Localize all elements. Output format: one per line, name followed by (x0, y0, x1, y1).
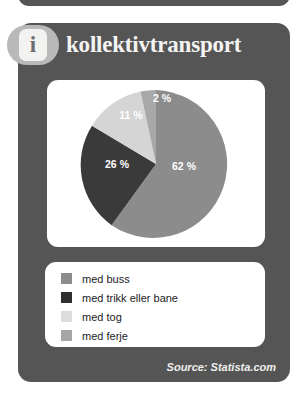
legend-swatch-icon-med-trikk-eller-bane (61, 292, 72, 303)
info-icon: i (7, 25, 59, 65)
page-title: kollektivtransport (66, 27, 286, 63)
legend-swatch-icon-med-tog (61, 311, 72, 322)
infographic-card: i kollektivtransport 62 % 26 % 11 % 2 % (18, 23, 290, 382)
legend-item-med-ferje[interactable]: med ferje (61, 327, 261, 344)
source-attribution: Source: Statista.com (167, 361, 276, 373)
legend-item-med-tog[interactable]: med tog (61, 308, 261, 325)
legend-item-med-trikk-eller-bane[interactable]: med trikk eller bane (61, 289, 261, 306)
pie-label-med-ferje: 2 % (153, 92, 172, 104)
legend-swatch-icon-med-ferje (61, 330, 72, 341)
pie-label-med-buss: 62 % (172, 160, 197, 172)
legend-swatch-icon-med-buss (61, 273, 72, 284)
legend-panel: med buss med trikk eller bane med tog me… (45, 262, 265, 347)
chart-panel: 62 % 26 % 11 % 2 % (47, 80, 265, 247)
legend-label-med-trikk-eller-bane: med trikk eller bane (82, 292, 178, 304)
legend-label-med-buss: med buss (82, 273, 130, 285)
pie-chart-svg: 62 % 26 % 11 % 2 % (76, 84, 236, 244)
pie-label-med-tog: 11 % (119, 109, 143, 121)
pie-label-med-trikk-eller-bane: 26 % (105, 158, 130, 170)
partial-panel-above (18, 0, 290, 6)
pie-chart: 62 % 26 % 11 % 2 % (76, 84, 236, 244)
card-header: i kollektivtransport (18, 23, 290, 68)
legend-label-med-ferje: med ferje (82, 330, 128, 342)
info-icon-square: i (19, 29, 47, 61)
legend-list: med buss med trikk eller bane med tog me… (61, 270, 261, 346)
info-icon-glyph: i (19, 29, 47, 61)
legend-item-med-buss[interactable]: med buss (61, 270, 261, 287)
legend-label-med-tog: med tog (82, 311, 122, 323)
